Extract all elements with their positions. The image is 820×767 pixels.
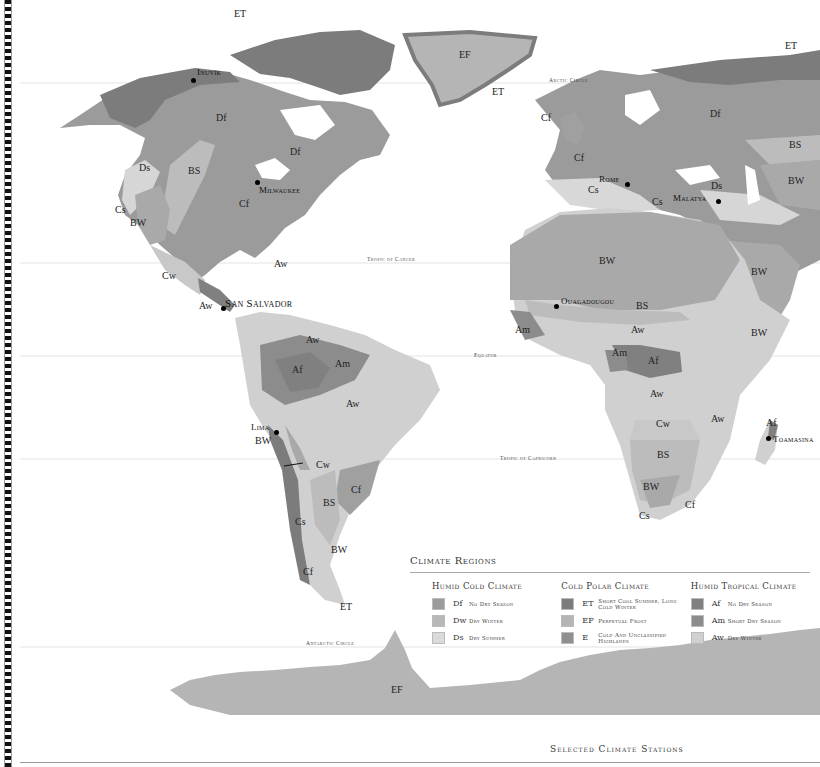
region-label-ds: Ds [711,180,722,191]
legend-swatch [561,632,574,644]
region-label-am: Am [335,358,350,369]
region-label-bs: BS [323,497,335,508]
city-dot-icon [274,430,279,435]
legend-swatch [691,615,704,627]
legend-group-cold-polar: Cold Polar Climate ETShort Cool Summer, … [561,581,690,646]
legend-swatch [561,615,574,627]
region-label-af: Af [766,417,777,428]
region-label-bs: BS [789,139,801,150]
region-label-et: ET [492,86,504,97]
region-label-et: ET [785,40,797,51]
region-label-aw: Aw [274,258,288,269]
city-label-milwaukee: Milwaukee [259,185,300,195]
region-label-cs: Cs [639,510,650,521]
region-label-am: Am [515,324,530,335]
region-label-cw: Cw [316,459,330,470]
region-label-bw: BW [751,266,767,277]
world-climate-map [0,0,820,767]
region-label-aw: Aw [346,398,360,409]
region-label-cf: Cf [541,112,551,123]
region-label-cs: Cs [652,196,663,207]
region-label-cs: Cs [295,516,306,527]
city-dot-icon [766,436,771,441]
city-label-inuvik: Inuvik [197,67,221,77]
region-label-cf: Cf [303,566,313,577]
legend-swatch [432,632,445,644]
region-label-cf: Cf [351,484,361,495]
region-label-cf: Cf [685,499,695,510]
legend-swatch [691,632,704,644]
region-label-aw: Aw [631,324,645,335]
city-dot-icon [625,182,630,187]
region-label-ef: EF [459,49,471,60]
city-label-ouagadougou: Ouagadougou [561,296,614,306]
city-label-san-salvador: San Salvador [225,297,292,309]
region-label-cw: Cw [656,418,670,429]
legend-swatch [432,615,445,627]
legend-swatch [691,598,704,610]
region-label-am: Am [612,347,627,358]
region-label-df: Df [216,112,227,123]
greenland [405,32,535,105]
region-label-cf: Cf [574,152,584,163]
region-label-aw: Aw [650,388,664,399]
city-dot-icon [554,304,559,309]
region-label-aw: Aw [199,300,213,311]
legend-item-af: AfNo Dry Season [691,595,820,612]
region-label-df: Df [290,146,301,157]
legend-group-title: Humid Cold Climate [432,581,561,591]
legend-item-e: ECold And Unclassified Highlands [561,629,690,646]
antarctic-circle-label: Antarctic Circle [306,640,354,646]
legend-item-df: DfNo Dry Season [432,595,561,612]
legend-item-am: AmShort Dry Season [691,612,820,629]
region-label-bw: BW [643,481,659,492]
region-label-cs: Cs [115,204,126,215]
legend-swatch [432,598,445,610]
legend-title: Climate Regions [410,555,810,573]
region-label-af: Af [292,364,303,375]
legend-group-humid-cold: Humid Cold Climate DfNo Dry Season DwDry… [432,581,561,646]
region-label-bw: BW [599,255,615,266]
region-label-et: ET [234,8,246,19]
region-label-bs: BS [657,449,669,460]
region-label-bw: BW [751,327,767,338]
legend-group-title: Humid Tropical Climate [691,581,820,591]
region-label-bw: BW [255,435,271,446]
arctic-circle-label: Arctic Circle [549,77,588,83]
region-label-bw: BW [130,217,146,228]
region-label-cf: Cf [239,198,249,209]
climate-regions-legend: Climate Regions Humid Cold Climate DfNo … [410,555,820,646]
stations-divider [20,762,820,763]
region-label-aw: Aw [306,334,320,345]
legend-item-ef: EFPerpetual Frost [561,612,690,629]
legend-group-humid-tropical: Humid Tropical Climate AfNo Dry Season A… [691,581,820,646]
city-dot-icon [191,78,196,83]
city-label-lima: Lima [251,422,269,432]
selected-climate-stations-heading: Selected Climate Stations [550,744,684,754]
city-label-malatya: Malatya [673,193,706,203]
city-label-rome: Rome [599,174,620,184]
equator-label: Equator [474,352,497,358]
region-label-ds: Ds [139,162,150,173]
north-america [60,30,395,312]
legend-swatch [561,598,574,610]
legend-item-aw: AwDry Winter [691,629,820,646]
city-dot-icon [716,199,721,204]
city-label-toamasina: Toamasina [773,434,814,444]
region-label-bw: BW [331,544,347,555]
region-label-ef: EF [391,684,403,695]
region-label-df: Df [710,108,721,119]
region-label-et: ET [340,601,352,612]
tropic-of-cancer-label: Tropic of Cancer [367,256,415,262]
legend-item-ds: DsDry Summer [432,629,561,646]
legend-item-dw: DwDry Winter [432,612,561,629]
region-label-cw: Cw [162,270,176,281]
region-label-bw: BW [788,175,804,186]
tropic-of-capricorn-label: Tropic of Capricorn [500,455,556,461]
region-label-cs: Cs [588,184,599,195]
region-label-bs: BS [636,300,648,311]
region-label-aw: Aw [711,413,725,424]
legend-item-et: ETShort Cool Summer, Long Cold Winter [561,595,690,612]
region-label-af: Af [648,355,659,366]
region-label-bs: BS [188,165,200,176]
